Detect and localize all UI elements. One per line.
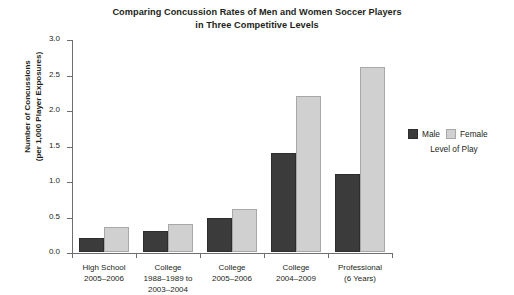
bar-female-3[interactable] [296,96,321,252]
y-axis-line [72,40,73,254]
x-axis-category-label: College1988–1989 to2003–2004 [136,262,200,295]
x-axis-line [72,253,393,254]
x-axis-category-label-line: College [200,262,264,273]
bar-female-4[interactable] [360,67,385,252]
legend-label-female: Female [460,129,488,139]
y-axis-tick-label: 2.5 [36,70,60,79]
legend-item-male[interactable]: Male [408,129,440,139]
x-axis-category-label-line: 2005–2006 [200,273,264,284]
x-axis-tick [136,253,137,258]
chart-title-line-2: in Three Competitive Levels [57,19,457,32]
y-axis-tick-label: 0.0 [36,247,60,256]
x-axis-category-label: Professional(6 Years) [328,262,392,284]
x-axis-category-label-line: 1988–1989 to [136,273,200,284]
x-axis-title: Level of Play [408,144,500,154]
legend-entries: Male Female [408,129,514,139]
bar-male-2[interactable] [207,218,232,252]
y-axis-tick: 0.5 [67,218,72,219]
y-axis-tick-label: 1.5 [36,141,60,150]
x-axis-tick [392,253,393,258]
bar-male-4[interactable] [335,174,360,252]
x-axis-category-label: College2004–2009 [264,262,328,284]
legend-swatch-female-icon [446,129,456,139]
x-axis-tick [200,253,201,258]
bar-female-0[interactable] [104,227,129,252]
bar-male-0[interactable] [79,238,104,252]
x-axis-tick [72,253,73,258]
y-axis-tick: 1.5 [67,147,72,148]
legend-label-male: Male [422,129,440,139]
legend-item-female[interactable]: Female [446,129,488,139]
bar-male-1[interactable] [143,231,168,252]
x-axis-category-label-line: College [264,262,328,273]
x-axis-category-label-line: High School [72,262,136,273]
y-axis-tick: 1.0 [67,182,72,183]
y-axis-tick-label: 2.0 [36,105,60,114]
x-axis-category-label-line: College [136,262,200,273]
x-axis-category-label-line: Professional [328,262,392,273]
x-axis-category-label-line: 2003–2004 [136,284,200,295]
x-axis-category-label-line: 2005–2006 [72,273,136,284]
x-axis-category-label-line: (6 Years) [328,273,392,284]
legend-swatch-male-icon [408,129,418,139]
y-axis-tick-label: 0.5 [36,212,60,221]
bar-male-3[interactable] [271,153,296,252]
y-axis-tick-label: 3.0 [36,34,60,43]
y-axis-tick: 2.5 [67,76,72,77]
plot-area: 0.00.51.01.52.02.53.0 High School2005–20… [72,40,392,253]
chart-legend: Male Female Level of Play [408,129,514,154]
y-axis-title-line-1: Number of Concussions [23,12,34,202]
x-axis-tick [328,253,329,258]
bar-chart-figure: Comparing Concussion Rates of Men and Wo… [0,0,514,295]
chart-title-line-1: Comparing Concussion Rates of Men and Wo… [57,6,457,19]
y-axis-tick: 2.0 [67,111,72,112]
x-axis-category-label: College2005–2006 [200,262,264,284]
x-axis-category-label: High School2005–2006 [72,262,136,284]
bar-female-1[interactable] [168,224,193,252]
chart-title: Comparing Concussion Rates of Men and Wo… [57,6,457,31]
x-axis-category-label-line: 2004–2009 [264,273,328,284]
bar-female-2[interactable] [232,209,257,252]
x-axis-tick [264,253,265,258]
y-axis-tick: 3.0 [67,40,72,41]
y-axis-tick-label: 1.0 [36,176,60,185]
